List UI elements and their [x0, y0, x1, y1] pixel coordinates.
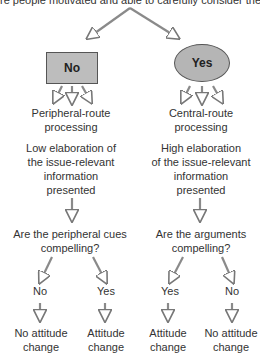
left-yes-result: Attitude change — [78, 326, 134, 354]
right-no-result: No attitude change — [198, 326, 260, 354]
right-yes-result: Attitude change — [140, 326, 196, 354]
high-elaboration-label: High elaboration of the issue-relevant i… — [136, 141, 260, 197]
low-elaboration-label: Low elaboration of the issue-relevant in… — [6, 141, 136, 197]
central-route-label: Central-route processing — [136, 106, 260, 134]
decision-yes-ellipse: Yes — [174, 44, 230, 82]
peripheral-cues-question: Are the peripheral cues compelling? — [0, 227, 140, 255]
left-outcome-no-answer: No — [20, 284, 60, 298]
arguments-question: Are the arguments compelling? — [136, 227, 260, 255]
left-outcome-yes-answer: Yes — [84, 284, 128, 298]
decision-no-box: No — [46, 52, 98, 84]
arrow-to-yes — [130, 8, 178, 38]
right-outcome-no-answer: No — [212, 284, 252, 298]
right-outcome-yes-answer: Yes — [148, 284, 192, 298]
left-no-result: No attitude change — [8, 326, 74, 354]
peripheral-route-label: Peripheral-route processing — [6, 106, 136, 134]
arrow-to-no — [88, 8, 130, 38]
